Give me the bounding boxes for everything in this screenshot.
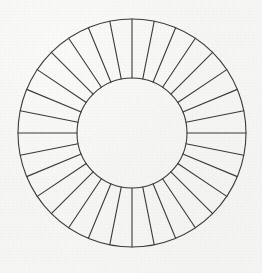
radial-spoke xyxy=(186,111,244,123)
radial-spoke xyxy=(143,187,155,245)
radial-spoke xyxy=(178,164,227,197)
radial-spoke xyxy=(88,28,111,83)
radial-spoke xyxy=(51,52,93,94)
radial-spoke xyxy=(153,28,176,83)
radial-spoke xyxy=(27,154,82,177)
radial-spoke xyxy=(110,21,122,79)
radial-spoke xyxy=(163,38,196,87)
radial-spoke xyxy=(27,89,82,112)
radial-spoke xyxy=(171,172,213,214)
radial-spoke xyxy=(110,187,122,245)
radial-spoke xyxy=(143,21,155,79)
segmented-annulus-diagram xyxy=(0,0,262,273)
radial-spokes-group xyxy=(18,19,246,247)
radial-spoke xyxy=(186,144,244,156)
radial-spoke xyxy=(171,52,213,94)
radial-spoke xyxy=(153,184,176,239)
figure-canvas xyxy=(0,0,262,273)
radial-spoke xyxy=(37,164,86,197)
radial-spoke xyxy=(37,70,86,103)
radial-spoke xyxy=(69,179,102,228)
radial-spoke xyxy=(178,70,227,103)
radial-spoke xyxy=(20,111,78,123)
radial-spoke xyxy=(183,89,238,112)
radial-spoke xyxy=(51,172,93,214)
radial-spoke xyxy=(88,184,111,239)
inner-circle xyxy=(77,78,187,188)
radial-spoke xyxy=(163,179,196,228)
radial-spoke xyxy=(69,38,102,87)
radial-spoke xyxy=(183,154,238,177)
radial-spoke xyxy=(20,144,78,156)
